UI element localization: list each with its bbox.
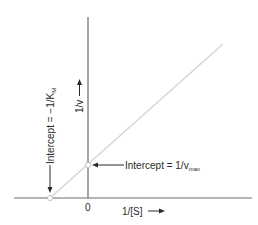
regression-line bbox=[50, 44, 223, 198]
lineweaver-burk-plot: 0 1/[S] 1/v Intercept = 1/vmax Intercept… bbox=[0, 0, 258, 225]
x-intercept-marker bbox=[47, 195, 52, 200]
y-intercept-annotation: Intercept = 1/vmax bbox=[92, 160, 200, 172]
y-intercept-marker bbox=[85, 162, 90, 167]
y-intercept-subscript: max bbox=[189, 166, 200, 172]
x-intercept-text: Intercept = −1/K bbox=[45, 93, 56, 164]
x-intercept-subscript: M bbox=[51, 88, 57, 93]
up-arrow-icon bbox=[77, 79, 82, 96]
x-axis-label: 1/[S] bbox=[122, 206, 143, 217]
y-axis-label: 1/v bbox=[74, 100, 85, 113]
x-intercept-annotation: Intercept = −1/KM bbox=[45, 88, 57, 193]
svg-text:Intercept = −1/KM: Intercept = −1/KM bbox=[45, 88, 57, 164]
right-arrow-icon bbox=[148, 209, 165, 214]
svg-text:Intercept = 1/vmax: Intercept = 1/vmax bbox=[125, 160, 200, 172]
down-arrow-icon bbox=[48, 187, 53, 193]
y-intercept-text: Intercept = 1/v bbox=[125, 160, 189, 171]
origin-label: 0 bbox=[85, 202, 91, 213]
